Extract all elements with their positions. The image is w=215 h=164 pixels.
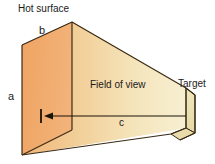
label-dimension-a: a [8,91,14,102]
label-field-of-view: Field of view [90,80,146,90]
label-dimension-c: c [119,118,124,128]
label-hot-surface: Hot surface [18,4,69,14]
label-dimension-b: b [39,25,45,36]
label-target: Target [178,79,206,89]
field-of-view-diagram: Hot surface b a c Field of view Target [0,0,215,164]
target-face [186,88,195,133]
